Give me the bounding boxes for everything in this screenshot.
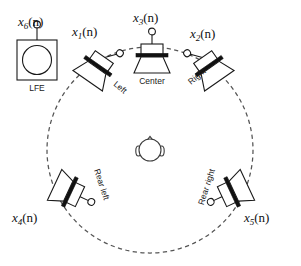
right-signal-label: x2(n) — [189, 26, 215, 43]
speaker-lfe: LFE x6(n) — [17, 14, 57, 93]
center-horn — [134, 57, 170, 73]
rear-right-stem — [213, 196, 223, 201]
left-signal-label: x1(n) — [71, 24, 97, 41]
speaker-rear-right: Rear right x5(n) — [196, 167, 270, 227]
center-connector-icon — [149, 28, 156, 35]
rear-left-name-label: Rear left — [92, 168, 112, 202]
speaker-rear-left: Rear left x4(n) — [11, 168, 112, 227]
lfe-driver-icon — [23, 46, 52, 75]
speaker-layout-figure: LFE x6(n) Left x1(n) — [0, 0, 301, 266]
center-name-label: Center — [139, 76, 165, 86]
left-name-label: Left — [112, 79, 130, 96]
lfe-name-label: LFE — [29, 83, 45, 93]
center-signal-label: x3(n) — [132, 10, 158, 27]
speaker-left: Left x1(n) — [71, 24, 129, 96]
figure-canvas: LFE x6(n) Left x1(n) — [0, 0, 301, 266]
right-connector-icon — [182, 49, 191, 58]
rear-left-stem — [79, 196, 89, 201]
rear-left-signal-label: x4(n) — [11, 210, 37, 227]
listener-head-icon — [136, 137, 164, 162]
rear-left-connector-icon — [87, 197, 96, 206]
lfe-signal-label: x6(n) — [17, 14, 43, 31]
rear-right-signal-label: x5(n) — [243, 210, 269, 227]
listener-skull — [139, 139, 161, 161]
speaker-right: Right x2(n) — [179, 26, 234, 91]
